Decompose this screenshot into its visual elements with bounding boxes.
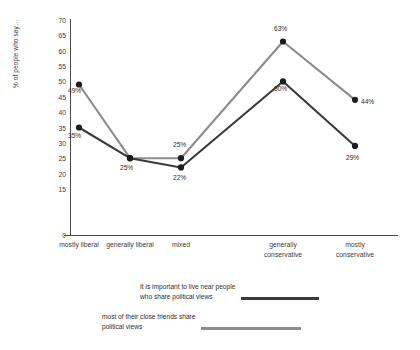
- legend-label-line2: who share political views: [140, 292, 235, 302]
- y-axis-zero-tick: [64, 235, 70, 236]
- legend-color-swatch: [201, 327, 301, 330]
- legend-label-line1: It is important to live near people: [140, 283, 235, 290]
- x-axis-category-label: generallyconservative: [248, 240, 318, 260]
- line-chart: % of people who say… 7065605550454035302…: [0, 0, 420, 350]
- x-axis-category-labels: mostly liberalgenerally liberalmixedgene…: [70, 240, 398, 280]
- data-point-label: 25%: [173, 141, 186, 148]
- data-point-label: 49%: [68, 87, 81, 94]
- data-point-label: 50%: [274, 85, 287, 92]
- data-point-label: 29%: [346, 154, 359, 161]
- data-point-label: 63%: [274, 25, 287, 32]
- legend-label: It is important to live near peoplewho s…: [140, 282, 235, 302]
- x-axis-category-label: mixed: [146, 240, 216, 250]
- x-axis-category-label: mostlyconservative: [320, 240, 390, 260]
- legend-label-line2: political views: [102, 322, 195, 332]
- data-point-label: 35%: [68, 132, 81, 139]
- legend-color-swatch: [241, 297, 319, 300]
- legend-item: most of their close friends sharepolitic…: [102, 312, 301, 332]
- data-point-label: 22%: [173, 174, 186, 181]
- plot-area: [70, 20, 398, 235]
- data-point-label: 44%: [361, 98, 374, 105]
- data-point-label: 25%: [120, 164, 133, 171]
- chart-legend: It is important to live near peoplewho s…: [140, 282, 415, 342]
- legend-label: most of their close friends sharepolitic…: [102, 312, 195, 332]
- legend-item: It is important to live near peoplewho s…: [140, 282, 319, 302]
- legend-label-line1: most of their close friends share: [102, 313, 195, 320]
